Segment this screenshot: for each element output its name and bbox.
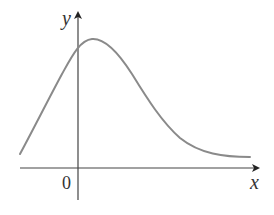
y-axis-label: y <box>60 7 71 30</box>
x-axis-label: x <box>249 171 259 193</box>
graph-figure: y 0 x <box>0 0 274 215</box>
origin-label: 0 <box>62 173 71 193</box>
function-curve <box>20 39 250 157</box>
